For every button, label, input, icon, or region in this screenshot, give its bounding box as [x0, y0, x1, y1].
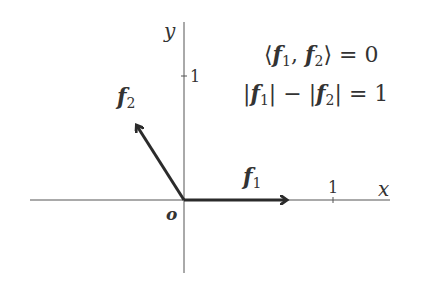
- vector-diagram: y x 1 1 o f1 f2 ⟨f1, f2⟩ = 0 |f1| − |f2|…: [0, 0, 436, 290]
- vector-f2-label: f2: [115, 83, 135, 111]
- origin-label: o: [166, 204, 177, 224]
- y-axis-label: y: [163, 19, 176, 43]
- vector-f1-label: f1: [241, 163, 261, 191]
- equation-inner-product: ⟨f1, f2⟩ = 0: [264, 41, 378, 69]
- equation-norm-difference: |f1| − |f2| = 1: [243, 80, 388, 108]
- vector-f2-arrow: [137, 126, 184, 200]
- x-axis-label: x: [378, 177, 389, 201]
- y-tick-label: 1: [190, 67, 200, 86]
- x-tick-label: 1: [328, 178, 338, 197]
